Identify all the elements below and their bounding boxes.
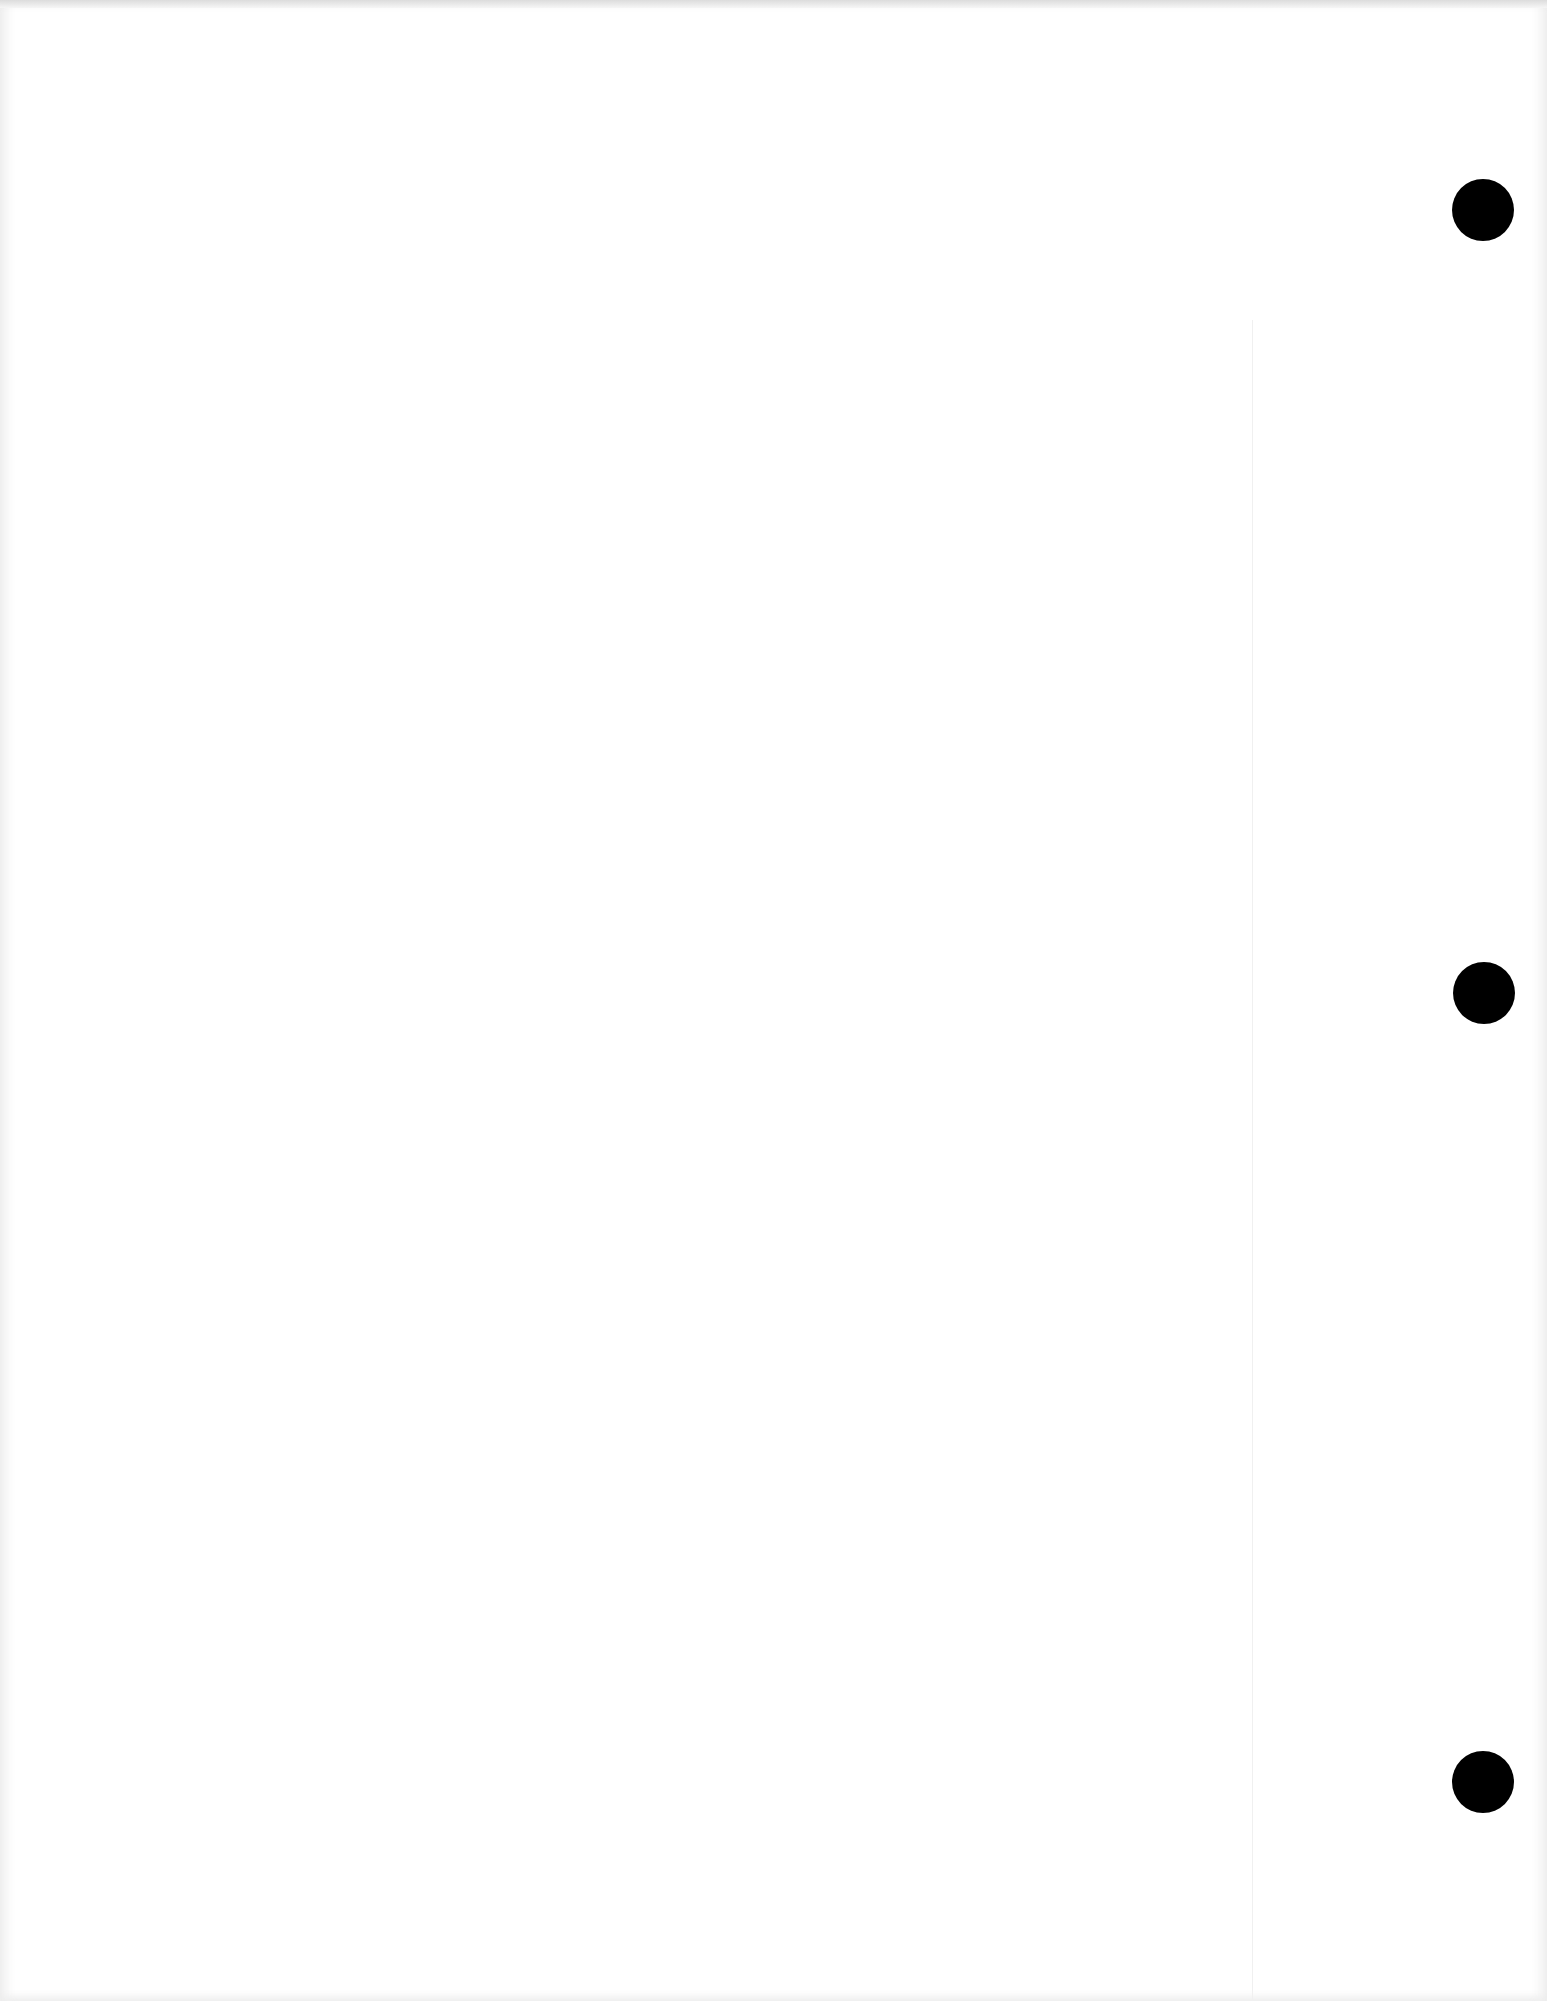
punch-hole-middle [1453, 962, 1515, 1024]
page-content-area [60, 60, 1210, 1940]
scan-top-edge [0, 0, 1547, 8]
page-fold-line [1252, 320, 1253, 2001]
punch-hole-top [1452, 179, 1514, 241]
punch-hole-bottom [1452, 1751, 1514, 1813]
scanned-page [0, 0, 1547, 2001]
